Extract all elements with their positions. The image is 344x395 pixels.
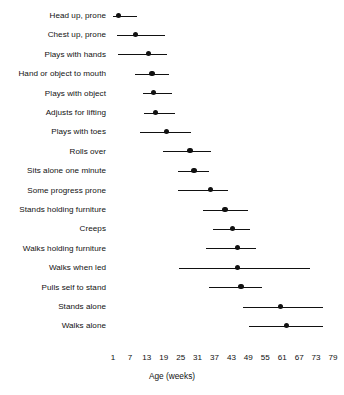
milestone-row: Rolls over <box>0 145 344 159</box>
milestone-range <box>0 319 344 333</box>
data-point-marker <box>133 32 138 37</box>
milestone-range <box>0 222 344 236</box>
milestone-row: Stands holding furniture <box>0 203 344 217</box>
data-point-marker <box>235 245 240 250</box>
milestone-range <box>0 9 344 23</box>
milestone-row: Plays with hands <box>0 48 344 62</box>
data-point-marker <box>153 110 158 115</box>
range-line <box>209 287 262 288</box>
data-point-marker <box>149 71 154 76</box>
milestone-range <box>0 125 344 139</box>
milestone-range <box>0 203 344 217</box>
milestone-row: Sits alone one minute <box>0 164 344 178</box>
data-point-marker <box>187 148 192 153</box>
data-point-marker <box>284 323 289 328</box>
milestone-row: Walks holding furniture <box>0 242 344 256</box>
data-point-marker <box>230 226 235 231</box>
milestone-range <box>0 261 344 275</box>
milestone-row: Chest up, prone <box>0 28 344 42</box>
milestone-range <box>0 184 344 198</box>
data-point-marker <box>238 284 243 289</box>
dot-range-chart: Head up, proneChest up, pronePlays with … <box>0 0 344 395</box>
data-point-marker <box>191 168 196 173</box>
data-point-marker <box>278 304 283 309</box>
milestone-row: Plays with object <box>0 87 344 101</box>
x-axis-title: Age (weeks) <box>0 371 344 381</box>
milestone-row: Stands alone <box>0 300 344 314</box>
x-tick-label: 79 <box>323 352 343 364</box>
data-point-marker <box>164 129 169 134</box>
milestone-range <box>0 106 344 120</box>
milestone-range <box>0 242 344 256</box>
range-line <box>117 35 165 36</box>
data-point-marker <box>146 51 151 56</box>
data-point-marker <box>235 265 240 270</box>
milestone-range <box>0 164 344 178</box>
milestone-row: Pulls self to stand <box>0 281 344 295</box>
milestone-range <box>0 145 344 159</box>
data-point-marker <box>208 187 213 192</box>
milestone-range <box>0 300 344 314</box>
range-line <box>178 190 228 191</box>
milestone-range <box>0 48 344 62</box>
milestone-row: Adjusts for lifting <box>0 106 344 120</box>
milestone-row: Plays with toes <box>0 125 344 139</box>
data-point-marker <box>151 90 156 95</box>
milestone-row: Walks alone <box>0 319 344 333</box>
milestone-range <box>0 67 344 81</box>
x-axis: 17131925313743495561677379 <box>0 352 344 370</box>
range-line <box>144 113 175 114</box>
milestone-row: Some progress prone <box>0 184 344 198</box>
milestone-range <box>0 87 344 101</box>
milestone-range <box>0 28 344 42</box>
range-line <box>206 248 256 249</box>
data-point-marker <box>116 13 121 18</box>
range-line <box>243 307 323 308</box>
range-line <box>143 93 172 94</box>
range-line <box>179 268 310 269</box>
milestone-row: Creeps <box>0 222 344 236</box>
milestone-row: Walks when led <box>0 261 344 275</box>
milestone-row: Head up, prone <box>0 9 344 23</box>
milestone-row: Hand or object to mouth <box>0 67 344 81</box>
range-line <box>118 54 167 55</box>
data-point-marker <box>222 207 227 212</box>
milestone-range <box>0 281 344 295</box>
